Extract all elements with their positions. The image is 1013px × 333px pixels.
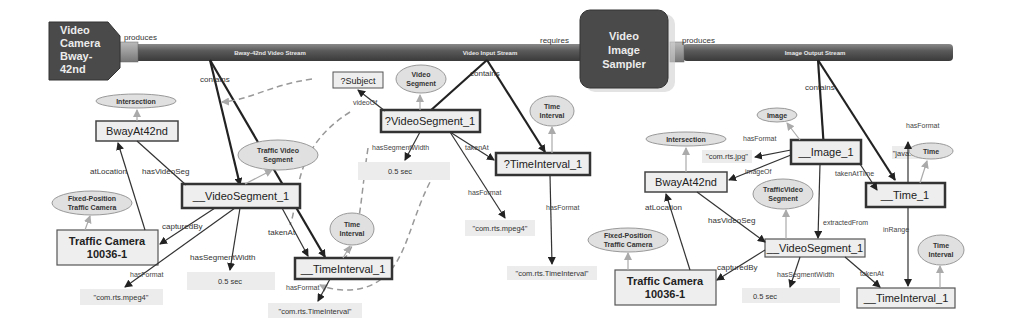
right-lit-width-label: 0.5 sec: [753, 292, 777, 301]
right-video-segment-label: __VideoSegment_1: [766, 242, 863, 254]
edge-mid-hasformat-1-label: hasFormat: [468, 189, 502, 196]
left-lit-time-label: "com.rts.TimeInterval": [279, 307, 352, 316]
stream-pipes: Bway-42nd Video Stream Video Input Strea…: [120, 42, 953, 62]
vs-class-line-1: Video: [412, 71, 431, 78]
tvs-class-line-1: Traffic Video: [257, 147, 299, 154]
right-time-class-line-1: Time: [933, 242, 949, 249]
produces-label-2: produces: [682, 36, 715, 45]
edge-right-hasformat-2-label: hasFormat: [906, 122, 940, 129]
edge-takenattime-label: takenAtTime: [835, 170, 874, 177]
middle-lit-mpeg-label: "com.rts.mpeg4": [473, 224, 528, 233]
image-output-stream-label: Image Output Stream: [785, 50, 846, 56]
right-time-class-line-2: Interval: [929, 251, 954, 258]
right-time-interval-label: __TimeInterval_1: [863, 292, 949, 304]
edge-right-atlocation-label: atLocation: [645, 203, 682, 212]
mid-time-class-line-2: Interval: [540, 112, 565, 119]
edge-right-hasformat-1-label: hasFormat: [743, 135, 777, 142]
contains-label-1: contains: [200, 75, 230, 84]
right-traffic-camera-line-2: 10036-1: [645, 288, 685, 300]
video-image-sampler-component[interactable]: Video Image Sampler: [580, 10, 675, 92]
video-segment-class-node[interactable]: [396, 65, 446, 93]
sampler-label-line-3: Sampler: [602, 58, 646, 70]
camera-label-line-3: Bway-: [60, 50, 93, 62]
edge-hasvideoseg-label: hasVideoSeg: [142, 167, 189, 176]
left-time-interval-class-node[interactable]: [330, 213, 374, 245]
middle-lit-width-label: 0.5 sec: [388, 167, 412, 176]
right-fixed-camera-line-2: Traffic Camera: [604, 241, 653, 248]
vs-class-line-2: Segment: [406, 80, 436, 88]
camera-connector: [120, 42, 138, 62]
lit-jpg-label: "com.rts.jpg": [706, 152, 748, 161]
edge-mid-hassegmentwidth-label: hasSegmentWidth: [372, 144, 429, 152]
middle-time-interval-class-node[interactable]: [530, 96, 574, 126]
mid-time-class-line-1: Time: [544, 103, 560, 110]
fixed-camera-class-line-2: Traffic Camera: [68, 204, 117, 211]
traffic-video-segment-class-node[interactable]: [238, 140, 318, 170]
intersection-class-label: Intersection: [116, 98, 156, 105]
right-intersection-class-label: Intersection: [666, 136, 706, 143]
right-tvs-class-node[interactable]: [753, 179, 813, 209]
requires-label: requires: [540, 36, 569, 45]
fixed-camera-class-line-1: Fixed-Position: [68, 195, 116, 202]
edge-hasformat-2-label: hasFormat: [286, 284, 320, 291]
edge-inrange-label: inRange: [883, 226, 909, 234]
right-tvs-class-line-2: Segment: [768, 195, 798, 203]
time-node-label: __Time_1: [880, 189, 930, 201]
left-lit-mpeg-label: "com.rts.mpeg4": [94, 293, 149, 302]
right-bway-label: BwayAt42nd: [655, 176, 717, 188]
video-input-stream-label: Video Input Stream: [463, 50, 518, 56]
edge-right-capturedby-label: capturedBy: [717, 263, 757, 272]
camera-label-line-2: Camera: [60, 37, 101, 49]
sampler-label-line-2: Image: [608, 44, 640, 56]
edge-videoof-label: videoOf: [353, 99, 377, 106]
middle-graph: ?Subject Video Segment ?VideoSegment_1 T…: [333, 65, 597, 280]
subject-node-label: ?Subject: [340, 76, 376, 86]
time-class-line-1: Time: [344, 221, 360, 228]
contains-label-2: contains: [470, 69, 500, 78]
left-lit-width-label: 0.5 sec: [218, 277, 242, 286]
traffic-camera-line-1: Traffic Camera: [69, 235, 146, 247]
right-tvs-class-line-1: TrafficVideo: [763, 186, 803, 193]
edge-right-hassegmentwidth-label: hasSegmentWidth: [777, 271, 834, 279]
edge-mid-hasformat-2-label: hasFormat: [546, 204, 580, 211]
traffic-camera-line-2: 10036-1: [87, 248, 127, 260]
left-graph: Intersection BwayAt42nd Traffic Video Se…: [52, 94, 392, 318]
stream-processing-diagram: Bway-42nd Video Stream Video Input Strea…: [0, 0, 1013, 333]
video-camera-component[interactable]: Video Camera Bway- 42nd: [49, 22, 120, 80]
edge-capturedby-label: capturedBy: [162, 222, 202, 231]
time-class-line-2: Interval: [340, 230, 365, 237]
edge-imageof-label: imageOf: [745, 168, 772, 176]
bway-stream-label: Bway-42nd Video Stream: [234, 50, 306, 56]
edge-mid-takenat-label: takenAt: [465, 144, 489, 151]
produces-label-1: produces: [124, 33, 157, 42]
edge-hassegmentwidth-label: hasSegmentWidth: [190, 253, 255, 262]
edge-right-hasvideoseg-label: hasVideoSeg: [708, 216, 755, 225]
middle-time-interval-label: ?TimeInterval_1: [504, 158, 582, 170]
sampler-label-line-1: Video: [609, 30, 639, 42]
left-video-segment-label: __VideoSegment_1: [192, 190, 289, 202]
camera-label-line-1: Video: [60, 24, 90, 36]
edge-hasformat-1-label: hasFormat: [130, 271, 164, 278]
contains-label-3: contains: [805, 83, 835, 92]
edge-takenat-label: takenAt: [268, 228, 296, 237]
bway-node-label: BwayAt42nd: [106, 125, 168, 137]
right-traffic-camera-line-1: Traffic Camera: [627, 275, 704, 287]
camera-label-line-4: 42nd: [60, 63, 86, 75]
left-time-interval-label: __TimeInterval_1: [300, 263, 386, 275]
time-class-label: Time: [923, 148, 939, 155]
image-class-label: Image: [767, 112, 787, 120]
right-graph: Image Intersection "com.rts.jpg" __Image…: [588, 108, 964, 308]
edge-extractedfrom-label: extractedFrom: [823, 219, 868, 226]
middle-lit-time-label: "com.rts.TimeInterval": [516, 269, 589, 278]
right-time-interval-class-node[interactable]: [918, 235, 964, 265]
right-fixed-camera-line-1: Fixed-Position: [604, 232, 652, 239]
image-node-label: __Image_1: [797, 146, 853, 158]
middle-video-segment-label: ?VideoSegment_1: [385, 115, 475, 127]
edge-right-takenat-label: takenAt: [860, 270, 884, 277]
edge-atlocation-label: atLocation: [90, 167, 127, 176]
tvs-class-line-2: Segment: [263, 156, 293, 164]
